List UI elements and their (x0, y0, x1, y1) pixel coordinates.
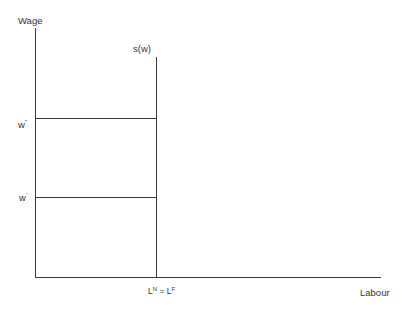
labour-equilibrium-label: LN = LF (148, 287, 175, 296)
x-axis (35, 277, 381, 278)
wage-label-mark: '' (25, 119, 27, 125)
wage-line-w-prime (35, 197, 157, 198)
supply-curve-line (156, 57, 157, 278)
equals-sign: = (157, 286, 167, 296)
y-axis-label: Wage (18, 16, 42, 26)
wage-label-base: w (19, 192, 26, 203)
y-axis (35, 28, 36, 278)
wage-label-w-prime: w' (19, 193, 27, 203)
l-f-sup: F (172, 286, 176, 292)
wage-label-w-double-prime: w'' (18, 120, 27, 130)
l-f-base: L (167, 286, 172, 296)
l-n-sup: N (153, 286, 157, 292)
wage-label-base: w (18, 119, 25, 130)
supply-curve-label: s(w) (133, 44, 151, 54)
wage-line-w-double-prime (35, 118, 157, 119)
x-axis-label: Labour (360, 288, 390, 298)
wage-label-mark: ' (26, 192, 27, 198)
